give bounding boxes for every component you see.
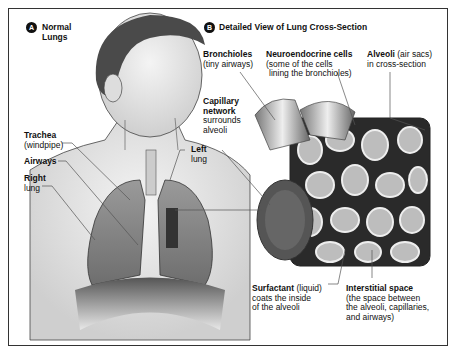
label-neuroendocrine: Neuroendocrine cells (some of the cells … [266,50,352,79]
label-surfactant: Surfactant (liquid) coats the inside of … [252,284,322,313]
label-interstitial-space: Interstitial space (the space between th… [346,284,429,322]
label-alveoli: Alveoli (air sacs) in cross-section [367,50,432,69]
label-trachea: Trachea (windpipe) [24,131,63,150]
label-right-lung: Right lung [24,174,46,193]
panel-a-title: A [26,22,41,33]
left-lung-cutout [166,208,178,248]
label-left-lung: Left lung [191,145,207,164]
trachea-shape [146,150,156,195]
label-bronchioles: Bronchioles (tiny airways) [203,50,253,69]
label-airways: Airways [24,157,57,167]
cross-section-illustration [255,99,430,266]
panel-a-badge: A [26,22,37,33]
panel-b-title: BDetailed View of Lung Cross-Section [204,22,367,33]
label-capillary-network: Capillary network surrounds alveoli [203,97,241,135]
panel-b-title-text: Detailed View of Lung Cross-Section [219,22,367,32]
panel-a-title-text: Normal Lungs [42,23,71,42]
panel-b-badge: B [204,22,215,33]
panel-a-title-line2: Lungs [42,33,71,43]
